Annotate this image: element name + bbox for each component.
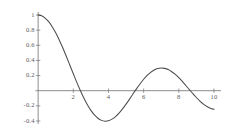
axes-group	[36, 12, 222, 124]
y-axis-tick-label: 1	[31, 12, 34, 19]
data-series-line	[38, 15, 214, 121]
x-axis-tick-label: 4	[98, 94, 118, 101]
data-group	[38, 15, 214, 121]
y-axis-tick-label: 0.2	[26, 72, 35, 79]
plot-canvas	[0, 0, 226, 129]
y-axis-tick-label: 0.4	[26, 57, 35, 64]
y-axis-tick-label: -0.2	[24, 102, 35, 109]
y-axis-tick-label: 0.8	[26, 27, 35, 34]
y-axis-tick-label: -0.4	[24, 118, 35, 125]
y-axis-tick-label: 0.6	[26, 42, 35, 49]
plot-figure: 10.80.60.40.2-0.2-0.4 246810	[0, 0, 226, 129]
x-axis-tick-label: 8	[169, 94, 189, 101]
x-axis-tick-label: 2	[63, 94, 83, 101]
x-axis-tick-label: 6	[134, 94, 154, 101]
x-axis-tick-label: 10	[204, 94, 224, 101]
